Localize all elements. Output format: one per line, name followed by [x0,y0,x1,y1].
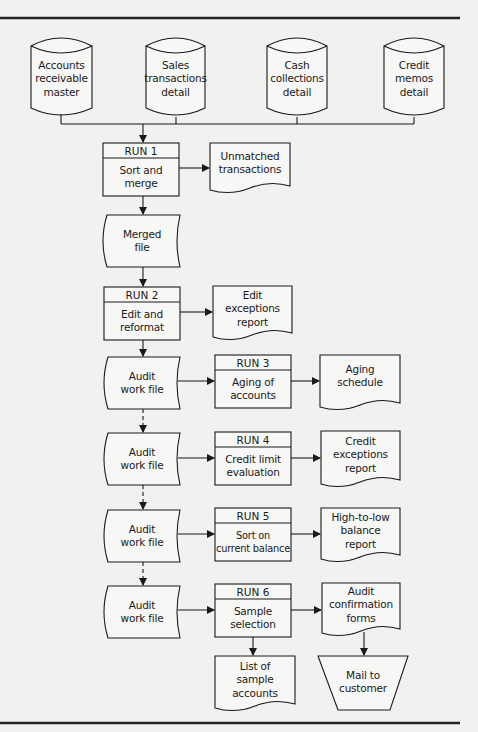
audit-work-file-3-label: Audit work file [104,510,180,562]
run-6-label: Sample selection [215,599,291,637]
source-sales-transactions-label: Sales transactions detail [144,55,207,103]
run-4-label: Credit limit evaluation [215,447,291,485]
run-3-header: RUN 3 [215,355,291,370]
document-credit-exceptions-label: Credit exceptions report [321,432,400,478]
manual-operation-label: Mail to customer [328,662,398,702]
audit-work-file-2-label: Audit work file [104,433,180,485]
document-confirmation-forms-label: Audit confirmation forms [320,584,402,626]
document-sample-list-label: List of sample accounts [215,657,295,703]
document-aging-schedule-label: Aging schedule [320,357,400,395]
document-high-to-low-label: High-to-low balance report [321,509,400,553]
run-2-header: RUN 2 [104,287,180,302]
audit-work-file-1-label: Audit work file [104,357,180,409]
run-2-label: Edit and reformat [104,302,180,340]
flowchart-canvas: Accounts receivable master Sales transac… [0,0,478,732]
run-4-header: RUN 4 [215,432,291,447]
document-unmatched-label: Unmatched transactions [210,145,290,181]
run-1-label: Sort and merge [103,158,179,196]
run-6-header: RUN 6 [215,584,291,599]
source-credit-memos-label: Credit memos detail [384,55,444,103]
source-cash-collections-label: Cash collections detail [267,55,327,103]
audit-work-file-4-label: Audit work file [104,586,180,638]
merge-connector [61,114,414,142]
run-1-header: RUN 1 [103,143,179,158]
document-edit-exceptions-label: Edit exceptions report [213,287,292,331]
source-accounts-receivable-label: Accounts receivable master [31,55,92,103]
run-5-label: Sort on current balance [213,523,293,561]
merged-file-label: Merged file [104,215,180,267]
run-3-label: Aging of accounts [215,370,291,408]
run-5-header: RUN 5 [215,508,291,523]
